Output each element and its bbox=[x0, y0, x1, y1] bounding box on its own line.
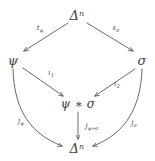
edge-label-s-sigma: sσ bbox=[112, 25, 119, 32]
edge-label-j-psi: jψ bbox=[18, 118, 24, 125]
arrow-left-to-bottom bbox=[13, 69, 62, 146]
node-center-base: ψ ∗ σ bbox=[61, 97, 95, 111]
node-top-delta-n: Δn bbox=[70, 9, 85, 22]
edge-label-j-psi-star-sigma-sub: ψ∗σ bbox=[88, 124, 99, 130]
node-right-sigma: σ bbox=[137, 54, 146, 67]
edge-label-iota-1-sub: 1 bbox=[51, 71, 54, 77]
node-top-superscript: n bbox=[79, 9, 84, 18]
node-bottom-base: Δ bbox=[70, 141, 80, 156]
node-bottom-superscript: n bbox=[79, 142, 84, 151]
edge-label-t-psi: tψ bbox=[37, 25, 44, 32]
node-top-base: Δ bbox=[70, 8, 80, 23]
edge-label-iota-1: ι1 bbox=[48, 70, 54, 77]
edge-label-t-psi-sub: ψ bbox=[39, 26, 43, 32]
edge-label-j-sigma: jσ bbox=[131, 120, 137, 127]
edge-label-iota-2: ι2 bbox=[114, 81, 120, 88]
node-left-base: ψ bbox=[8, 53, 18, 68]
commutative-diagram: Δn ψ σ ψ ∗ σ Δn tψ sσ ι1 ι2 jψ∗σ jψ jσ bbox=[0, 0, 155, 161]
node-left-psi: ψ bbox=[8, 54, 18, 67]
node-right-base: σ bbox=[137, 53, 146, 68]
node-center-psi-star-sigma: ψ ∗ σ bbox=[61, 98, 95, 110]
node-bottom-delta-n: Δn bbox=[70, 142, 85, 155]
arrow-left-to-center bbox=[23, 68, 63, 96]
edge-label-iota-2-sub: 2 bbox=[117, 82, 120, 88]
edge-label-j-sigma-sub: σ bbox=[133, 121, 136, 127]
edge-label-j-psi-star-sigma: jψ∗σ bbox=[86, 123, 99, 130]
diagram-arrows-layer bbox=[0, 0, 155, 161]
arrow-top-to-right bbox=[87, 23, 133, 51]
arrow-top-to-left bbox=[24, 23, 68, 51]
edge-label-j-psi-sub: ψ bbox=[20, 119, 24, 125]
edge-label-s-sigma-sub: σ bbox=[116, 26, 119, 32]
